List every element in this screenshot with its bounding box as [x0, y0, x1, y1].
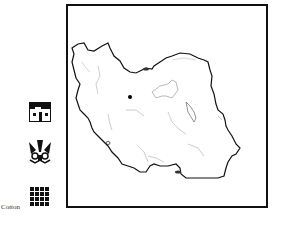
lake: [186, 102, 196, 122]
capital-dot: [128, 95, 132, 99]
map-frame: [66, 4, 268, 208]
iran-map: [68, 6, 266, 206]
river: [82, 62, 90, 72]
river: [172, 58, 196, 60]
mask-icon: [29, 140, 51, 164]
lake: [152, 80, 178, 98]
river: [218, 116, 222, 120]
river: [126, 110, 144, 116]
house-icon: [29, 102, 51, 122]
cotton-label: Cotton: [1, 203, 20, 211]
grid-icon: [30, 187, 50, 207]
river: [96, 66, 100, 94]
river: [148, 156, 164, 162]
river: [168, 112, 186, 134]
river: [108, 114, 112, 130]
river: [188, 144, 204, 156]
river: [138, 146, 148, 162]
